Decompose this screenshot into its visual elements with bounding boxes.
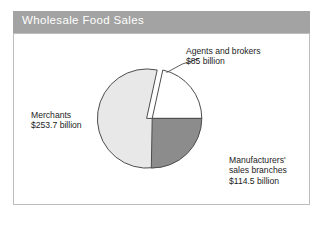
pie-label-merchants: Merchants $253.7 billion xyxy=(31,110,82,131)
pie-slice-manufacturers-sales-branches[interactable] xyxy=(151,118,202,168)
pie-label-merchants-name: Merchants xyxy=(31,110,82,120)
pie-slice-agents-and-brokers[interactable] xyxy=(152,70,202,118)
pie-label-merchants-value: $253.7 billion xyxy=(31,120,82,130)
pie-label-manufacturers-value: $114.5 billion xyxy=(229,176,287,186)
pie-label-agents-name: Agents and brokers xyxy=(186,46,261,56)
pie-label-agents-value: $85 billion xyxy=(186,56,261,66)
pie-label-manufacturers-name-line1: Manufacturers' xyxy=(229,155,287,165)
pie-label-agents-and-brokers: Agents and brokers $85 billion xyxy=(186,46,261,67)
pie-label-manufacturers-sales-branches: Manufacturers' sales branches $114.5 bil… xyxy=(229,155,287,186)
pie-label-manufacturers-name-line2: sales branches xyxy=(229,165,287,175)
